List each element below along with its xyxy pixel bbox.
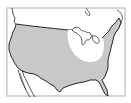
range-map: Range map (0, 0, 131, 103)
map-canvas (0, 0, 131, 103)
